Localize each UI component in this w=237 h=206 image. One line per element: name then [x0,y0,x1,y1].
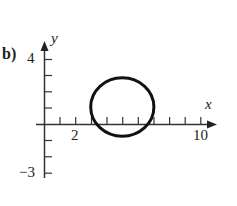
y-axis-arrow-icon [41,41,49,51]
part-label: b) [2,46,16,62]
coordinate-plot [0,0,237,206]
y-axis-label: y [51,31,58,46]
y-ticks [45,60,53,174]
y-tick-label-neg3: −3 [19,165,35,180]
x-tick-label-2: 2 [71,128,79,143]
x-axis-label: x [205,97,212,112]
x-ticks [60,117,201,125]
y-tick-label-4: 4 [27,51,35,66]
x-axis-arrow-icon [207,121,217,129]
x-tick-label-10: 10 [193,128,208,143]
circle-curve [91,78,154,136]
